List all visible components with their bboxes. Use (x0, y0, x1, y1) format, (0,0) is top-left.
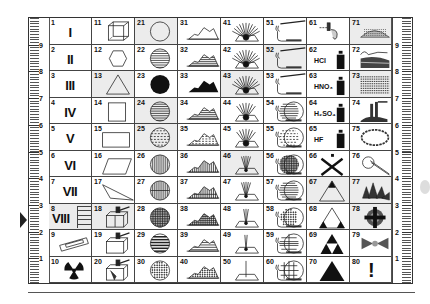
symbol-cell-73[interactable]: 73 (350, 71, 393, 98)
symbol-cell-37[interactable]: 37 (178, 177, 221, 204)
symbol-cell-47[interactable]: 47 (221, 177, 264, 204)
symbol-cell-27[interactable]: 27 (135, 177, 178, 204)
symbol-cell-34[interactable]: 34 (178, 98, 221, 125)
roman-numeral: VI (49, 158, 91, 173)
symbol-cell-46[interactable]: 46 (221, 151, 264, 178)
symbol-cell-13[interactable]: 13 (92, 71, 135, 98)
symbol-cell-25[interactable]: 25 (135, 124, 178, 151)
symbol-cell-33[interactable]: 33 (178, 71, 221, 98)
symbol-cell-21[interactable]: 21 (135, 18, 178, 45)
symbol-cell-71[interactable]: 71 (350, 18, 393, 45)
symbol-cell-16[interactable]: 16 (92, 151, 135, 178)
symbol-cell-79[interactable]: 79 (350, 230, 393, 257)
symbol-cell-72[interactable]: 72 (350, 45, 393, 72)
symbol-cell-19[interactable]: 19 (92, 230, 135, 257)
burner-tube-icon (272, 20, 306, 43)
symbol-cell-23[interactable]: 23 (135, 71, 178, 98)
ray-single-icon (229, 259, 263, 282)
symbol-cell-20[interactable]: 20 (92, 257, 135, 284)
mountain-dotted-icon (186, 259, 220, 282)
symbol-cell-58[interactable]: 58 (264, 204, 307, 231)
symbol-cell-45[interactable]: 45 (221, 124, 264, 151)
symbol-cell-9[interactable]: 9 (49, 230, 92, 257)
symbol-cell-70[interactable]: 70 (307, 257, 350, 284)
symbol-cell-12[interactable]: 12 (92, 45, 135, 72)
symbol-cell-50[interactable]: 50 (221, 257, 264, 284)
symbol-cell-11[interactable]: 11 (92, 18, 135, 45)
symbol-cell-15[interactable]: 15 (92, 124, 135, 151)
symbol-cell-65[interactable]: 65HF (307, 124, 350, 151)
symbol-cell-5[interactable]: 5V (49, 124, 92, 151)
symbol-cell-53[interactable]: 53 (264, 71, 307, 98)
symbol-cell-38[interactable]: 38 (178, 204, 221, 231)
rays-sparse-icon (229, 153, 263, 176)
symbol-cell-63[interactable]: 63HNO₃ (307, 71, 350, 98)
symbol-cell-3[interactable]: 3III (49, 71, 92, 98)
symbol-cell-43[interactable]: 43 (221, 71, 264, 98)
symbol-cell-30[interactable]: 30 (135, 257, 178, 284)
symbol-cell-31[interactable]: 31 (178, 18, 221, 45)
symbol-cell-62[interactable]: 62HCl (307, 45, 350, 72)
symbol-cell-1[interactable]: 1I (49, 18, 92, 45)
symbol-cell-66[interactable]: 66 (307, 151, 350, 178)
circle-icon (143, 20, 177, 43)
symbol-cell-60[interactable]: 60 (264, 257, 307, 284)
symbol-cell-39[interactable]: 39 (178, 230, 221, 257)
symbol-cell-4[interactable]: 4IV (49, 98, 92, 125)
symbol-cell-18[interactable]: 18 (92, 204, 135, 231)
symbol-cell-44[interactable]: 44 (221, 98, 264, 125)
circle-h-lines-icon (143, 100, 177, 123)
symbol-cell-10[interactable]: 10 (49, 257, 92, 284)
symbol-cell-77[interactable]: 77 (350, 177, 393, 204)
symbol-cell-36[interactable]: 36 (178, 151, 221, 178)
symbol-cell-2[interactable]: 2II (49, 45, 92, 72)
symbol-cell-14[interactable]: 14 (92, 98, 135, 125)
symbol-cell-32[interactable]: 32 (178, 45, 221, 72)
symbol-cell-35[interactable]: 35 (178, 124, 221, 151)
symbol-cell-17[interactable]: 17 (92, 177, 135, 204)
row-pointer-arrow-icon[interactable] (20, 212, 27, 228)
symbol-cell-29[interactable]: 29 (135, 230, 178, 257)
symbol-cell-57[interactable]: 57 (264, 177, 307, 204)
symbol-cell-59[interactable]: 59 (264, 230, 307, 257)
triforce-icon (315, 232, 349, 255)
symbol-cell-41[interactable]: 41 (221, 18, 264, 45)
symbol-cell-28[interactable]: 28 (135, 204, 178, 231)
symbol-cell-54[interactable]: 54 (264, 98, 307, 125)
chemical-label: H₂SO₄ (314, 110, 336, 117)
slide-mount-icon (57, 232, 91, 255)
rays-dense-icon (229, 73, 263, 96)
symbol-cell-74[interactable]: 74 (350, 98, 393, 125)
symbol-cell-75[interactable]: 75 (350, 124, 393, 151)
symbol-cell-51[interactable]: 51 (264, 18, 307, 45)
symbol-cell-40[interactable]: 40 (178, 257, 221, 284)
symbol-cell-56[interactable]: 56 (264, 151, 307, 178)
symbol-cell-49[interactable]: 49 (221, 230, 264, 257)
symbol-cell-6[interactable]: 6VI (49, 151, 92, 178)
symbol-cell-80[interactable]: 80! (350, 257, 393, 284)
symbol-cell-76[interactable]: 76 (350, 151, 393, 178)
ring-chain-icon (358, 126, 392, 149)
roman-numeral: VIII (52, 211, 91, 226)
symbol-cell-78[interactable]: 78 (350, 204, 393, 231)
symbol-cell-42[interactable]: 42 (221, 45, 264, 72)
parallelogram-icon (100, 153, 134, 176)
symbol-cell-61[interactable]: 61 (307, 18, 350, 45)
symbol-cell-8[interactable]: 8VIII (49, 204, 92, 231)
symbol-cell-24[interactable]: 24 (135, 98, 178, 125)
symbol-cell-22[interactable]: 22 (135, 45, 178, 72)
symbol-cell-26[interactable]: 26 (135, 151, 178, 178)
symbol-cell-67[interactable]: 67 (307, 177, 350, 204)
symbol-cell-52[interactable]: 52 (264, 45, 307, 72)
mountain-outline-icon (186, 20, 220, 43)
symbol-cell-55[interactable]: 55 (264, 124, 307, 151)
mountain-h-lines-icon (186, 100, 220, 123)
ruler-mark: 5 (39, 149, 43, 156)
bowtie-cluster-icon (358, 232, 392, 255)
symbol-cell-48[interactable]: 48 (221, 204, 264, 231)
symbol-cell-7[interactable]: 7VII (49, 177, 92, 204)
symbol-cell-69[interactable]: 69 (307, 230, 350, 257)
symbol-cell-64[interactable]: 64H₂SO₄ (307, 98, 350, 125)
symbol-cell-68[interactable]: 68 (307, 204, 350, 231)
roman-numeral: II (49, 52, 91, 67)
